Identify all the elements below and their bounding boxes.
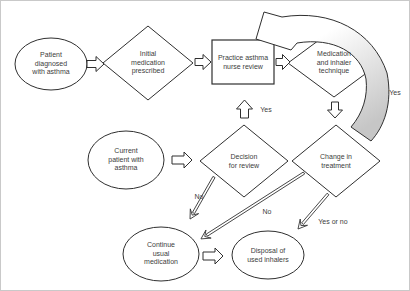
- node-label-current-patient: Current patient with asthma: [108, 147, 143, 173]
- edge-label-yes-or-no: Yes or no: [318, 218, 347, 225]
- node-label-decision-review: Decision for review: [229, 153, 259, 170]
- node-label-patient-diagnosed: Patient diagnosed with asthma: [32, 51, 69, 77]
- block-arrow-decision-to-review-yes: [237, 100, 253, 118]
- node-label-nurse-review: Practice asthma nurse review: [218, 54, 268, 71]
- block-arrow-patient-to-initial: [87, 57, 104, 72]
- edge-label-decision-no: No: [195, 193, 204, 200]
- line-arrow-change-to-disposal-yes-or-no: [294, 191, 331, 232]
- flowchart-shapes-canvas: [1, 1, 410, 291]
- asthma-flowchart: Patient diagnosed with asthma Initial me…: [0, 0, 410, 291]
- node-label-disposal-inhalers: Disposal of used inhalers: [247, 247, 289, 264]
- node-label-change-treatment: Change in treatment: [320, 153, 352, 170]
- block-arrow-review-to-technique: [276, 55, 290, 70]
- node-label-continue-medication: Continue usual medication: [144, 241, 178, 267]
- edge-label-review-yes: Yes: [260, 106, 271, 113]
- block-arrow-technique-to-change: [328, 102, 343, 118]
- node-label-initial-medication: Initial medication prescribed: [131, 50, 165, 76]
- block-arrow-current-to-decision: [172, 152, 192, 168]
- edge-label-change-no: No: [263, 208, 272, 215]
- node-label-medication-technique: Medication and inhaler technique: [317, 50, 352, 76]
- edge-label-loop-yes: Yes: [389, 89, 400, 96]
- block-arrow-continue-to-disposal: [203, 248, 223, 264]
- block-arrow-initial-to-review: [195, 55, 211, 70]
